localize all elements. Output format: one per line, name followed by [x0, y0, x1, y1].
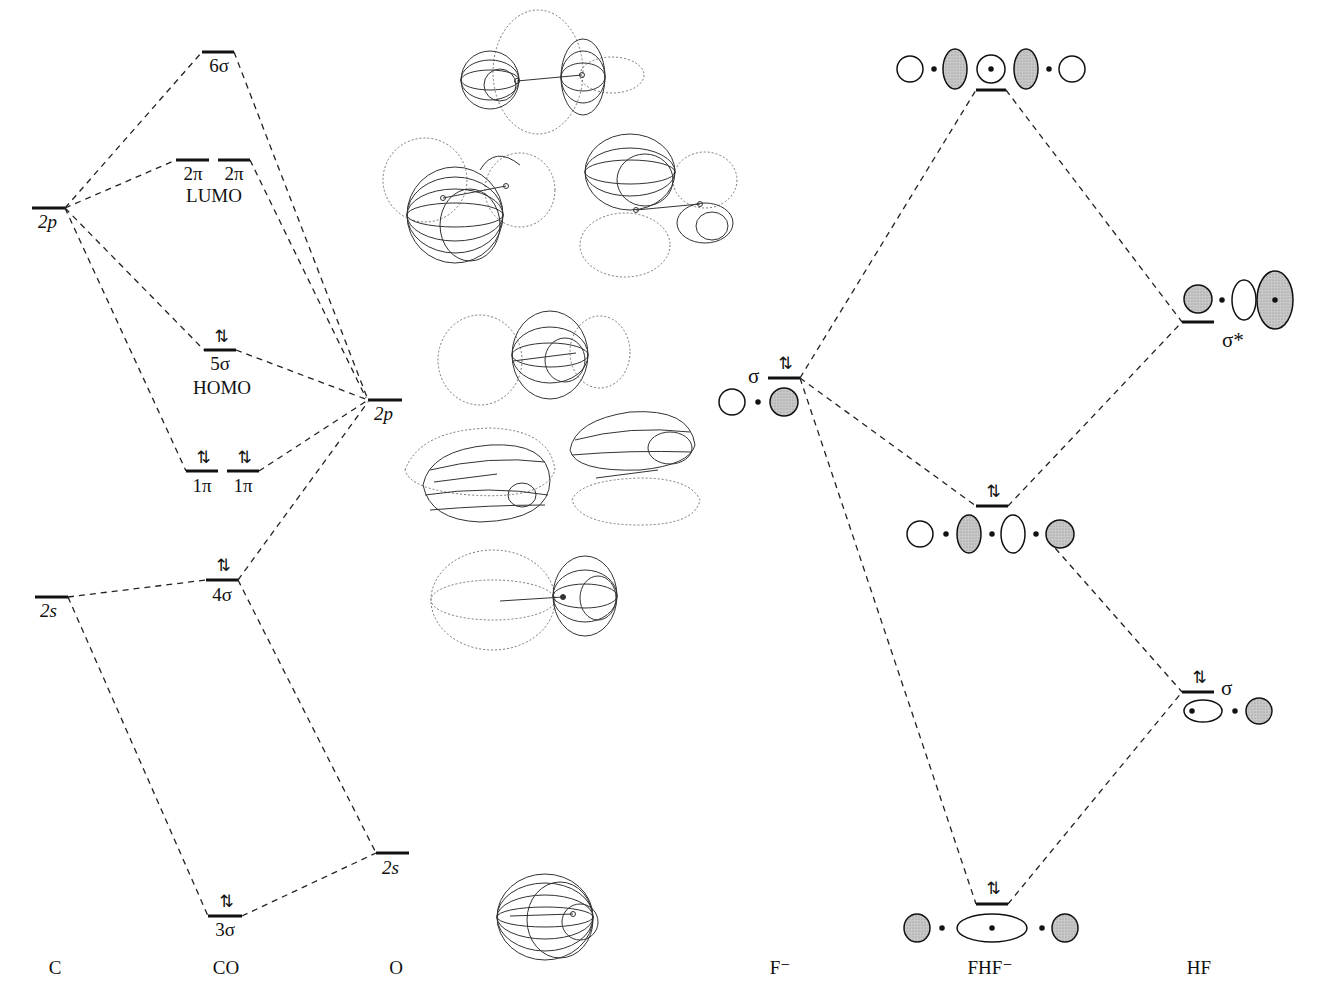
- o-2s-label: 2s: [382, 858, 399, 877]
- c-2p-label: 2p: [38, 212, 57, 231]
- f-minus-spin-pair: ⇅: [778, 355, 789, 372]
- fhf-bottom-orbital-picture: [904, 914, 1078, 942]
- orbital-2pi-render-b: [580, 134, 737, 277]
- hf-sigma-star-label: σ*: [1222, 330, 1244, 351]
- orbital-5sigma-render: [438, 311, 630, 405]
- orbital-2pi-render-a: [383, 138, 555, 263]
- c-2s-label: 2s: [40, 601, 57, 620]
- hf-sigma-orbital-picture: [1184, 698, 1272, 724]
- co-3sigma-label: 3σ: [215, 920, 235, 939]
- f-minus-orbital-picture: [719, 388, 798, 416]
- co-5sigma-spin-pair: ⇅: [214, 328, 225, 345]
- homo-label: HOMO: [193, 378, 251, 397]
- co-3sigma-spin-pair: ⇅: [219, 893, 230, 910]
- co-5sigma-label: 5σ: [210, 354, 230, 373]
- fhf-bottom-spin-pair: ⇅: [986, 880, 997, 897]
- column-label-hf: HF: [1187, 958, 1211, 977]
- co-1pi-spin-pair-a: ⇅: [196, 449, 207, 466]
- orbital-4sigma-render: [431, 550, 617, 650]
- lumo-label: LUMO: [186, 186, 242, 205]
- orbital-3sigma-render: [497, 874, 598, 960]
- hf-sigma-star-orbital-picture: [1184, 271, 1293, 329]
- fhf-middle-orbital-picture: [907, 515, 1074, 553]
- orbital-6sigma-render: [461, 10, 644, 134]
- column-label-o: O: [389, 958, 403, 977]
- co-1pi-spin-pair-b: ⇅: [237, 449, 248, 466]
- co-6sigma-label: 6σ: [209, 56, 229, 75]
- fhf-middle-spin-pair: ⇅: [986, 483, 997, 500]
- co-1pi-label-b: 1π: [233, 476, 252, 495]
- hf-sigma-label: σ: [1221, 678, 1232, 699]
- column-label-f-minus: F⁻: [770, 958, 791, 977]
- co-4sigma-spin-pair: ⇅: [216, 557, 227, 574]
- fhf-top-orbital-picture: [897, 49, 1085, 89]
- orbital-1pi-render-b: [570, 412, 700, 525]
- f-minus-sigma-label: σ: [748, 366, 759, 387]
- o-2p-label: 2p: [374, 404, 393, 423]
- hf-sigma-spin-pair: ⇅: [1192, 669, 1203, 686]
- co-2pi-label-a: 2π: [183, 164, 202, 183]
- co-1pi-label-a: 1π: [192, 476, 211, 495]
- orbital-1pi-render-a: [405, 428, 555, 522]
- column-label-c: C: [49, 958, 62, 977]
- co-2pi-label-b: 2π: [224, 164, 243, 183]
- co-4sigma-label: 4σ: [212, 585, 232, 604]
- co-correlation-lines: [65, 52, 376, 916]
- column-label-fhf-minus: FHF⁻: [968, 958, 1013, 977]
- mo-diagram-figure: 2p 2s 2p 2s 6σ 2π 2π LUMO ⇅ 5σ HOMO ⇅ ⇅ …: [0, 0, 1329, 988]
- column-label-co: CO: [213, 958, 239, 977]
